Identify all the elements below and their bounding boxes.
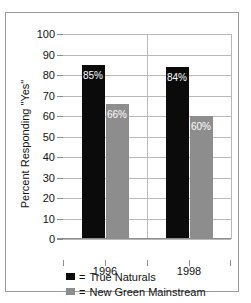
legend-item-true-naturals: =True Naturals (66, 269, 236, 284)
legend-item-new-green-mainstream: =New Green Mainstream (66, 284, 236, 299)
y-axis-tick-mark (57, 34, 63, 35)
y-axis-tick-label: 60 (43, 110, 55, 122)
y-axis-tick-label: 0 (49, 233, 55, 245)
y-axis-tick-mark (57, 96, 63, 97)
x-axis-line (57, 238, 231, 239)
legend-equals-sign: = (79, 286, 85, 298)
bar-value-label: 66% (106, 109, 129, 120)
y-axis-tick-mark (57, 198, 63, 199)
y-axis-tick-mark (57, 55, 63, 56)
y-axis-tick-label: 90 (43, 49, 55, 61)
y-axis-tick-mark (57, 75, 63, 76)
bar-value-label: 84% (166, 72, 189, 83)
plot-area: 0102030405060708090100 85%66%84%60% 1996… (63, 34, 231, 239)
legend-equals-sign: = (79, 271, 85, 283)
bar-true-naturals-1998: 84% (166, 67, 189, 239)
y-axis-tick-mark (57, 178, 63, 179)
x-axis-tick-mark (230, 260, 231, 266)
y-axis-tick-label: 50 (43, 131, 55, 143)
chart-legend: =True Naturals=New Green Mainstream (66, 269, 236, 299)
bar-new-green-mainstream-1998: 60% (190, 116, 213, 239)
legend-label: True Naturals (89, 271, 155, 283)
y-axis-tick-label: 30 (43, 172, 55, 184)
legend-swatch-new-green-mainstream (66, 288, 75, 295)
y-axis-tick-label: 40 (43, 151, 55, 163)
y-axis-tick-label: 80 (43, 69, 55, 81)
y-axis-tick-mark (57, 137, 63, 138)
chart-figure: Percent Responding "Yes" 010203040506070… (0, 0, 251, 303)
y-axis-tick-mark (57, 116, 63, 117)
bar-value-label: 60% (190, 121, 213, 132)
gridline-vertical (231, 34, 232, 239)
bar-true-naturals-1996: 85% (82, 65, 105, 239)
y-axis-tick-mark (57, 219, 63, 220)
legend-swatch-true-naturals (66, 273, 75, 280)
x-axis-tick-mark (63, 260, 64, 266)
gridline-horizontal (63, 239, 231, 240)
y-axis-tick-label: 20 (43, 192, 55, 204)
gridline-vertical (147, 34, 148, 239)
y-axis-tick-label: 70 (43, 90, 55, 102)
figure-border: Percent Responding "Yes" 010203040506070… (5, 12, 239, 292)
bar-new-green-mainstream-1996: 66% (106, 104, 129, 239)
y-axis-tick-mark (57, 239, 63, 240)
y-axis-tick-mark (57, 157, 63, 158)
legend-label: New Green Mainstream (89, 286, 205, 298)
y-axis-title: Percent Responding "Yes" (18, 64, 32, 224)
y-axis-tick-label: 100 (37, 28, 55, 40)
y-axis-tick-label: 10 (43, 213, 55, 225)
bar-value-label: 85% (82, 70, 105, 81)
x-axis-tick-mark (105, 260, 106, 266)
x-axis-tick-mark (147, 260, 148, 266)
x-axis-tick-mark (189, 260, 190, 266)
